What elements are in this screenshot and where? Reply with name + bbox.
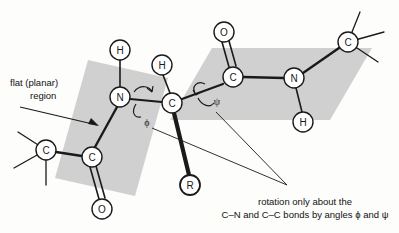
caption-block: rotation only about the C–N and C–C bond… bbox=[222, 196, 389, 220]
bond-ccarbonyl-n-right bbox=[243, 77, 284, 78]
peptide-plane-diagram: H N C C O H C bbox=[0, 0, 399, 233]
atom-o-right: O bbox=[214, 22, 234, 42]
atom-label: C bbox=[42, 145, 49, 156]
atom-h-left-amide: H bbox=[110, 40, 130, 60]
phi-angle-label: ϕ bbox=[144, 117, 149, 128]
leader-from-psi bbox=[216, 112, 287, 185]
atom-label: N bbox=[290, 73, 297, 84]
right-planar-region bbox=[170, 48, 372, 120]
atom-c-carbonyl-left: C bbox=[82, 147, 102, 167]
atom-label: H bbox=[299, 117, 306, 128]
atom-n-right: N bbox=[284, 68, 304, 88]
atom-h-alpha: H bbox=[152, 55, 172, 75]
atom-label: C bbox=[88, 152, 95, 163]
atom-label: H bbox=[158, 60, 165, 71]
planar-regions bbox=[55, 48, 372, 196]
atom-c-carbonyl-right: C bbox=[223, 67, 243, 87]
atom-c-alpha: C bbox=[162, 93, 182, 113]
figure-container: H N C C O H C bbox=[0, 0, 399, 233]
caption-line-2: C–N and C–C bonds by angles ϕ and ψ bbox=[222, 209, 389, 220]
planar-region-label-line1: flat (planar) bbox=[10, 77, 58, 88]
atom-h-right-amide: H bbox=[293, 112, 313, 132]
atom-label: O bbox=[220, 27, 228, 38]
leader-from-phi bbox=[152, 128, 287, 185]
atom-label: O bbox=[98, 204, 106, 215]
atom-c-left-term: C bbox=[36, 140, 56, 160]
psi-angle-label: ψ bbox=[214, 96, 221, 107]
caption-line-1: rotation only about the bbox=[258, 196, 352, 207]
caption-leader-lines bbox=[152, 112, 287, 185]
atom-label: C bbox=[229, 72, 236, 83]
atom-label: R bbox=[186, 180, 193, 191]
atom-c-right-term: C bbox=[338, 32, 358, 52]
planar-region-label-line2: region bbox=[30, 90, 56, 101]
bond-calpha-r-wedge bbox=[174, 113, 189, 175]
atom-label: C bbox=[168, 98, 175, 109]
atom-n-left: N bbox=[110, 87, 130, 107]
atom-o-left: O bbox=[92, 199, 112, 219]
atom-label: C bbox=[344, 37, 351, 48]
left-planar-region bbox=[55, 60, 168, 196]
atom-label: H bbox=[116, 45, 123, 56]
atom-label: N bbox=[116, 92, 123, 103]
atom-r-group: R bbox=[180, 175, 200, 195]
